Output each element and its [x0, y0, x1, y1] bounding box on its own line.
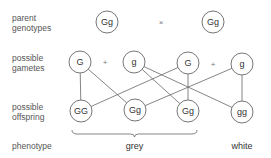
gamete-node: G	[69, 51, 91, 73]
inheritance-line	[80, 73, 81, 100]
gamete-node: g	[231, 53, 253, 75]
phenotype-label: white	[230, 141, 252, 151]
parent-genotype-node: Gg	[202, 11, 224, 33]
genotype-label: G	[76, 57, 83, 67]
connection-lines	[80, 67, 242, 108]
genotype-label: gg	[237, 107, 247, 117]
offspring-genotype-node: Gg	[124, 99, 146, 121]
genotype-label: Gg	[182, 106, 194, 116]
inheritance-line	[88, 69, 126, 103]
phenotype-label: grey	[126, 141, 144, 151]
genotype-label: Gg	[129, 105, 141, 115]
gamete-node: g	[123, 51, 145, 73]
gamete-node: G	[177, 52, 199, 74]
genotype-label: g	[131, 57, 136, 67]
genotype-label: Gg	[101, 17, 113, 27]
offspring-genotype-node: GG	[70, 100, 92, 122]
phenotype-group: greywhite	[72, 130, 253, 151]
grouping-brace	[72, 130, 197, 137]
offspring-genotype-node: Gg	[177, 100, 199, 122]
genotype-label: G	[184, 58, 191, 68]
genotype-label: GG	[74, 106, 88, 116]
offspring-genotype-node: gg	[231, 101, 253, 123]
genotype-label: Gg	[207, 17, 219, 27]
plus-symbol: +	[103, 58, 108, 67]
monohybrid-cross-diagram: parent genotypes possible gametes possib…	[0, 0, 271, 158]
plus-symbol: +	[211, 60, 216, 69]
genotype-nodes: GgGgGgGgGGGgGggg	[69, 11, 253, 123]
parent-genotype-node: Gg	[96, 11, 118, 33]
cross-graph: GgGgGgGgGGGgGggg ×++ greywhite	[0, 0, 271, 158]
genotype-label: g	[239, 59, 244, 69]
cross-symbol: ×	[159, 18, 164, 27]
